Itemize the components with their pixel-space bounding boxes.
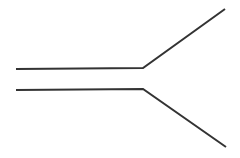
upper-diverging-line — [16, 9, 225, 69]
diagram-canvas — [0, 0, 240, 158]
lower-diverging-line — [16, 89, 226, 147]
diverging-lines-diagram — [0, 0, 240, 158]
